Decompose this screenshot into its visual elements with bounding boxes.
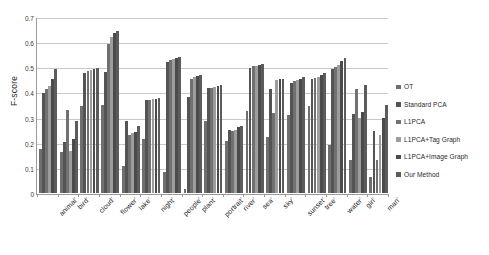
bar	[178, 57, 181, 193]
bar-group	[122, 18, 140, 193]
bar-group	[246, 18, 264, 193]
x-tick-mark	[388, 194, 389, 197]
x-tick-label: girl'	[364, 196, 377, 209]
bar-group	[349, 18, 367, 193]
x-tick-label: lake'	[138, 196, 153, 211]
bar	[199, 75, 202, 193]
legend-swatch-icon	[396, 155, 401, 160]
bar	[96, 68, 99, 193]
bar-group	[184, 18, 202, 193]
bar-chart-figure: F-score 00.10.20.30.40.50.60.7 animal'bi…	[0, 0, 489, 255]
bar	[282, 79, 285, 193]
y-tick-label: 0.5	[25, 65, 34, 72]
legend-swatch-icon	[396, 85, 401, 90]
bar-group	[287, 18, 305, 193]
bar-group	[142, 18, 160, 193]
legend-swatch-icon	[396, 102, 401, 107]
legend-swatch-icon	[396, 172, 401, 177]
legend-label: OT	[404, 83, 413, 90]
bar-group	[328, 18, 346, 193]
x-tick-label: sky'	[282, 196, 296, 210]
bar	[75, 121, 78, 193]
legend-item[interactable]: OT	[396, 78, 488, 96]
bar-group	[308, 18, 326, 193]
bar-group	[101, 18, 119, 193]
y-axis-title: F-score	[9, 61, 19, 121]
x-tick-label: cloud'	[98, 196, 116, 214]
y-tick-label: 0	[30, 191, 34, 198]
bar	[302, 77, 305, 193]
x-tick-label: tree'	[323, 196, 338, 211]
x-tick-label: man'	[386, 196, 402, 212]
legend-swatch-icon	[396, 120, 401, 125]
legend-item[interactable]: L1PCA+Tag Graph	[396, 131, 488, 149]
y-tick-label: 0.3	[25, 115, 34, 122]
bar-group	[204, 18, 222, 193]
bar	[261, 64, 264, 193]
x-tick-label: bird'	[75, 196, 90, 211]
y-tick-label: 0.2	[25, 140, 34, 147]
y-tick-label: 0.4	[25, 90, 34, 97]
chart-legend: OTStandard PCAL1PCAL1PCA+Tag GraphL1PCA+…	[396, 78, 488, 183]
bar-group	[60, 18, 78, 193]
x-tick-label: flower'	[119, 196, 139, 216]
y-tick-label: 0.1	[25, 165, 34, 172]
legend-item[interactable]: Standard PCA	[396, 96, 488, 114]
x-tick-label: plant'	[200, 196, 217, 213]
x-tick-label: sea'	[261, 196, 275, 210]
legend-label: Standard PCA	[404, 101, 447, 108]
legend-label: Our Method	[404, 171, 439, 178]
bar-group	[266, 18, 284, 193]
bar-group	[80, 18, 98, 193]
bar	[158, 98, 161, 193]
y-tick-label: 0.7	[25, 15, 34, 22]
bar-group	[39, 18, 57, 193]
legend-item[interactable]: L1PCA+Image Graph	[396, 148, 488, 166]
bar	[54, 69, 57, 193]
bar	[240, 126, 243, 193]
bar	[385, 105, 388, 193]
x-tick-label: night'	[159, 196, 176, 213]
y-tick-label: 0.6	[25, 40, 34, 47]
bar-group	[163, 18, 181, 193]
legend-item[interactable]: L1PCA	[396, 113, 488, 131]
x-axis-tick-labels: animal'bird'cloud'flower'lake'night'peop…	[36, 196, 388, 254]
x-tick-label: river'	[241, 196, 257, 212]
legend-item[interactable]: Our Method	[396, 166, 488, 184]
bar	[364, 85, 367, 193]
bar	[344, 58, 347, 193]
plot-area: 00.10.20.30.40.50.60.7	[36, 18, 388, 195]
legend-label: L1PCA+Tag Graph	[404, 136, 460, 143]
bar-group	[369, 18, 387, 193]
x-tick-label: animal'	[57, 196, 78, 217]
bar	[116, 31, 119, 193]
bar	[137, 126, 140, 193]
bar-group	[225, 18, 243, 193]
bar-series-container	[38, 18, 388, 193]
legend-swatch-icon	[396, 137, 401, 142]
legend-label: L1PCA+Image Graph	[404, 153, 468, 160]
bar	[323, 73, 326, 193]
x-tick-label: water'	[346, 196, 364, 214]
legend-label: L1PCA	[404, 118, 425, 125]
bar	[220, 85, 223, 193]
